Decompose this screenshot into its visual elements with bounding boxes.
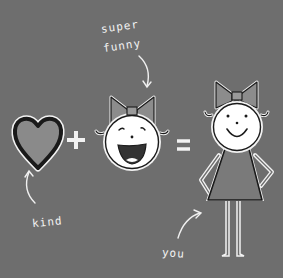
laughing-face-icon <box>96 97 168 171</box>
illustration-canvas: super funny <box>0 0 283 278</box>
girl-figure-icon <box>201 82 272 256</box>
plus-sign <box>69 133 83 147</box>
arrow-icon <box>139 56 151 87</box>
equals-sign <box>177 141 190 149</box>
illustration: super funny <box>0 0 283 278</box>
label-you: you <box>161 246 185 261</box>
label-super: super <box>100 18 140 36</box>
label-kind: kind <box>31 214 63 230</box>
label-funny: funny <box>102 37 142 55</box>
arrow-icon <box>25 171 35 203</box>
arrow-icon <box>178 210 201 238</box>
heart-icon <box>15 119 61 168</box>
